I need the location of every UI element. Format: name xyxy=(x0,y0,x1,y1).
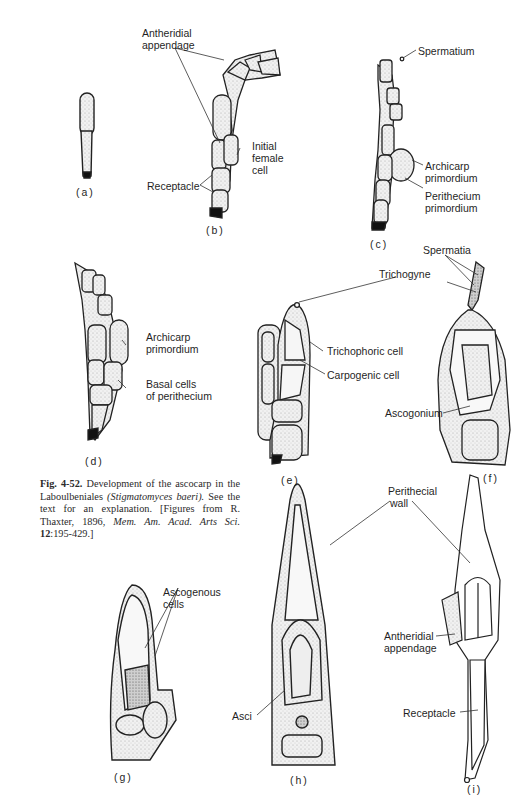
journal-name: Mem. Am. Acad. Arts Sci. xyxy=(113,516,240,527)
panel-c-drawing xyxy=(372,57,414,230)
panel-e-drawing xyxy=(258,303,310,464)
label-trichogyne: Trichogyne xyxy=(379,268,431,280)
figure-illustration xyxy=(0,0,532,796)
panel-tag-c: (c) xyxy=(370,238,388,250)
panel-tag-h: (h) xyxy=(290,774,309,786)
figure-caption: Fig. 4-52. Development of the ascocarp i… xyxy=(40,478,240,541)
label-trichophoric-cell: Trichophoric cell xyxy=(327,345,403,357)
panel-d-drawing xyxy=(75,263,128,440)
label-spermatium: Spermatium xyxy=(418,45,475,57)
figure-number: Fig. 4-52. xyxy=(40,478,82,489)
panel-a-drawing xyxy=(80,93,94,178)
label-basal-cells-of-perithecium: Basal cells of perithecium xyxy=(146,378,212,402)
panel-tag-i: (i) xyxy=(467,783,482,795)
label-ascogenous-cells: Ascogenous cells xyxy=(163,586,221,610)
label-perithecial-wall: Perithecial wall xyxy=(388,485,437,509)
label-initial-female-cell: Initial female cell xyxy=(252,140,284,176)
panel-tag-a: (a) xyxy=(76,186,95,198)
label-asci: Asci xyxy=(232,710,252,722)
panel-i-drawing xyxy=(442,475,500,783)
label-carpogenic-cell: Carpogenic cell xyxy=(327,369,399,381)
panel-tag-e: (e) xyxy=(281,474,300,486)
label-perithecium-primordium: Perithecium primordium xyxy=(425,190,480,214)
label-archicarp-primordium-c: Archicarp primordium xyxy=(425,160,478,184)
label-spermatia: Spermatia xyxy=(423,244,471,256)
panel-tag-b: (b) xyxy=(206,224,225,236)
panel-tag-f: (f) xyxy=(483,472,499,484)
panel-tag-d: (d) xyxy=(85,455,104,467)
panel-tag-g: (g) xyxy=(114,771,133,783)
panel-f-drawing xyxy=(438,262,510,465)
label-antheridial-appendage-i: Antheridial appendage xyxy=(384,630,437,654)
label-ascogonium: Ascogonium xyxy=(385,407,443,419)
label-receptacle-b: Receptacle xyxy=(147,180,200,192)
species-name: (Stigmatomyces baeri). xyxy=(107,491,204,502)
label-archicarp-primordium-d: Archicarp primordium xyxy=(146,331,199,355)
panel-h-drawing xyxy=(272,484,335,765)
panel-b-drawing xyxy=(210,50,280,218)
panel-g-drawing xyxy=(111,585,176,760)
label-receptacle-i: Receptacle xyxy=(403,707,456,719)
label-antheridial-appendage-b: Antheridial appendage xyxy=(142,27,195,51)
